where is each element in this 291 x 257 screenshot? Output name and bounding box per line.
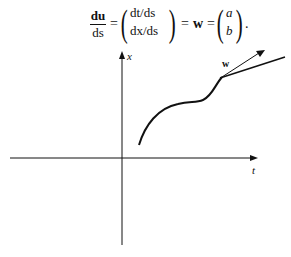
tangent-line: [220, 57, 285, 78]
t-axis-label: t: [252, 164, 255, 176]
w-label: w: [222, 58, 229, 69]
x-axis-label: x: [127, 50, 132, 62]
t-axis-arrow-icon: [250, 155, 258, 161]
x-axis-arrow-icon: [119, 51, 125, 59]
curve-diagram: [0, 0, 291, 257]
curve: [139, 77, 222, 145]
